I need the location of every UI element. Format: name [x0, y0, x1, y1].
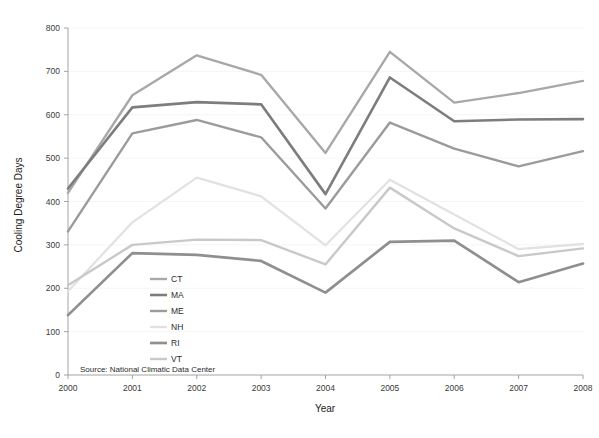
legend-label-vt: VT — [171, 354, 182, 364]
x-axis-title: Year — [315, 403, 336, 414]
y-tick-label: 300 — [46, 240, 60, 250]
y-tick-label: 600 — [46, 110, 60, 120]
y-tick-label: 700 — [46, 66, 60, 76]
y-tick-label: 0 — [55, 370, 60, 380]
y-tick-label: 200 — [46, 283, 60, 293]
y-tick-label: 500 — [46, 153, 60, 163]
chart-canvas: 0100200300400500600700800 20002001200220… — [0, 0, 599, 438]
y-axis-title: Cooling Degree Days — [13, 157, 24, 252]
y-tick-label: 400 — [46, 197, 60, 207]
x-tick-label: 2001 — [123, 383, 142, 393]
x-tick-label: 2008 — [574, 383, 593, 393]
legend-label-ma: MA — [171, 290, 184, 300]
y-tick-label: 100 — [46, 327, 60, 337]
x-tick-label: 2007 — [509, 383, 528, 393]
legend-label-ri: RI — [171, 338, 180, 348]
x-tick-label: 2006 — [445, 383, 464, 393]
x-tick-label: 2004 — [316, 383, 335, 393]
x-tick-label: 2005 — [380, 383, 399, 393]
legend-label-ct: CT — [171, 274, 182, 284]
cooling-degree-days-chart: 0100200300400500600700800 20002001200220… — [0, 0, 599, 438]
x-tick-label: 2003 — [252, 383, 271, 393]
x-tick-label: 2000 — [59, 383, 78, 393]
x-tick-label: 2002 — [187, 383, 206, 393]
legend-label-me: ME — [171, 306, 184, 316]
legend-label-nh: NH — [171, 322, 183, 332]
source-note: Source: National Climatic Data Center — [80, 365, 216, 374]
y-tick-label: 800 — [46, 23, 60, 33]
